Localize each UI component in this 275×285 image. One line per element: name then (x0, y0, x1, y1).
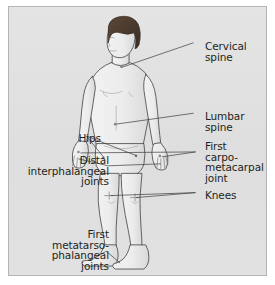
anatomy-figure: Cervical spine Lumbar spine First carpo-… (0, 0, 275, 285)
illustration-panel: Cervical spine Lumbar spine First carpo-… (8, 6, 267, 276)
right-leg (121, 174, 142, 247)
label-first-carpometacarpal-joint: First carpo- metacarpal joint (205, 141, 267, 183)
label-first-metatarsophalangeal-joints: First metatarso- phalangeal joints (17, 229, 109, 271)
marker-lumbar (114, 123, 117, 126)
label-cervical-spine: Cervical spine (205, 41, 267, 62)
label-distal-interphalangeal-joints: Distal interphalangeal joints (17, 155, 109, 187)
label-hips: Hips (43, 133, 101, 144)
label-knees: Knees (205, 190, 267, 201)
marker-right-thumb (159, 155, 162, 158)
marker-left-thumb (77, 151, 80, 154)
label-lumbar-spine: Lumbar spine (205, 111, 267, 132)
